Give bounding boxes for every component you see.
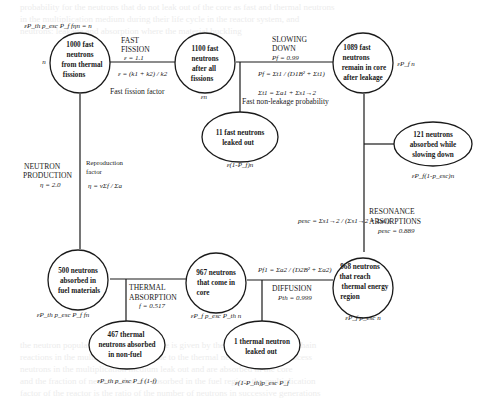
stage-value: Pth = 0.999 — [277, 294, 312, 302]
node-side-label: n — [42, 58, 46, 66]
node-text: neutrons — [191, 55, 218, 63]
stage-formula: ε = (k1 + k2) / k2 — [118, 70, 168, 78]
node-text: fissions — [63, 71, 86, 79]
node-text: core — [196, 289, 209, 297]
node-text: 467 thermal — [108, 331, 145, 339]
stage-title: RESONANCE — [369, 207, 415, 216]
node-formula: εP_f(1-p_esc)n — [412, 172, 455, 180]
node-text: slowing down — [412, 151, 454, 159]
stage-title: FISSION — [121, 45, 150, 54]
stage-formula: η = νΣf / Σa — [88, 182, 123, 190]
node-formula: εP_th p_esc P_f (1-f) — [97, 377, 157, 385]
node-text: 968 neutrons — [340, 263, 380, 271]
neutron-life-cycle-diagram: 1000 fast neutrons from thermal fissions… — [0, 0, 493, 403]
node-text: after leakage — [343, 74, 383, 82]
node-text: 11 fast neutrons — [216, 129, 265, 137]
stage-title: PRODUCTION — [23, 171, 72, 180]
node-text: 1000 fast — [66, 41, 94, 49]
stage-caption: Fast non-leakage probability — [242, 97, 329, 106]
node-formula: εP_th p_esc P_f fn — [37, 311, 90, 319]
node-text: neutrons absorbed — [98, 341, 155, 349]
node-text: leaked out — [245, 348, 277, 356]
node-formula: ε(1-P_f)n — [227, 161, 254, 169]
stage-formula: Pf = Σt1 / (D1B² + Σt1) — [257, 70, 326, 78]
node-formula: ε(1-P_th)p_esc P_f — [235, 379, 290, 387]
node-text: that come in — [197, 279, 235, 287]
node-text: that reach — [339, 273, 370, 281]
node-text: thermal energy — [342, 283, 389, 291]
stage-caption: factor — [86, 168, 103, 175]
node-text: from thermal — [61, 61, 102, 69]
stage-formula: pesc = Σs1→2 / (Σs1→2 + Σa1) — [297, 217, 391, 225]
node-text: 121 neutrons — [413, 131, 453, 139]
stage-value: ε = 1.1 — [124, 54, 144, 62]
node-text: neutrons — [66, 51, 93, 59]
node-formula: εP_f p_esc n — [345, 314, 381, 322]
node-text: leaked out — [222, 139, 254, 147]
stage-title: DIFFUSION — [272, 284, 312, 293]
stage-formula: Pf1 = Σa2 / (D2B² + Σa2) — [257, 266, 332, 274]
stage-value: Pf = 0.99 — [271, 54, 299, 62]
node-1100-fast-neutrons — [175, 33, 235, 93]
node-formula: εn — [201, 93, 208, 101]
node-text: 500 neutrons — [58, 267, 98, 275]
node-text: remain in core — [342, 64, 386, 72]
stage-value: f = 0.517 — [139, 302, 165, 310]
stage-title: NEUTRON — [24, 162, 61, 171]
node-formula: εP_f n — [397, 60, 415, 68]
stage-title: THERMAL — [129, 283, 166, 292]
stage-caption: Fast fission factor — [110, 87, 165, 96]
stage-title: SLOWING — [272, 35, 308, 44]
node-text: absorbed while — [410, 141, 457, 149]
node-text: 967 neutrons — [196, 269, 236, 277]
stage-value: η = 2.0 — [40, 181, 61, 189]
node-formula: εP_f p_esc P_th n — [191, 312, 242, 320]
stage-title: FAST — [121, 36, 139, 45]
node-text: 1 thermal neutron — [234, 338, 290, 346]
node-text: after all — [192, 65, 216, 73]
node-1089-fast-neutrons — [333, 33, 393, 93]
node-text: neutrons — [342, 54, 369, 62]
stage-value: pesc = 0.889 — [377, 227, 415, 235]
node-text: in non-fuel — [108, 351, 141, 359]
node-text: fuel materials — [58, 287, 100, 295]
node-text: absorbed in — [60, 277, 96, 285]
stage-title: DOWN — [272, 44, 296, 53]
stage-caption: Reproduction — [86, 159, 124, 166]
node-text: region — [340, 293, 359, 301]
node-formula: εP_th p_esc P_f fηn = n — [24, 22, 92, 30]
stage-title: ABSORPTION — [129, 293, 177, 302]
node-shapes — [48, 33, 472, 369]
node-text: 1100 fast — [192, 45, 220, 53]
node-text: 1089 fast — [343, 44, 371, 52]
node-11-fast-leaked — [202, 112, 278, 162]
stage-formula: Σt1 = Σa1 + Σs1→2 — [257, 89, 317, 97]
node-text: fissions — [191, 75, 214, 83]
